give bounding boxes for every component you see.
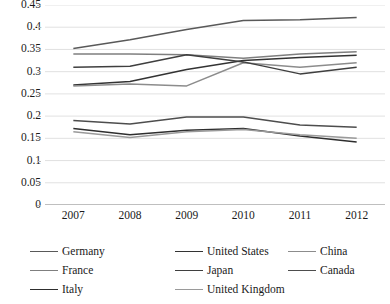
legend-item-label: Italy [62, 284, 83, 296]
y-axis-tick-mark [37, 205, 41, 206]
y-axis-tick-mark [37, 183, 41, 184]
series-line-germany [73, 17, 356, 48]
series-line-united-states [73, 55, 356, 85]
x-axis-tick-label: 2010 [232, 210, 255, 222]
series-line-canada [73, 117, 356, 127]
x-axis-tick-label: 2012 [345, 210, 368, 222]
y-axis-tick-mark [37, 72, 41, 73]
legend-item-japan[interactable]: Japan [175, 265, 233, 277]
legend-item-label: United Kingdom [207, 284, 285, 296]
y-axis-tick-mark [37, 116, 41, 117]
y-axis-tick-mark [37, 5, 41, 6]
legend-line-swatch [30, 289, 58, 290]
legend-item-label: Japan [207, 265, 233, 277]
legend-item-france[interactable]: France [30, 265, 93, 277]
chart-legend: GermanyUnited StatesChinaFranceJapanCana… [30, 246, 386, 302]
legend-line-swatch [175, 270, 203, 271]
line-chart-svg [45, 5, 385, 205]
legend-item-canada[interactable]: Canada [288, 265, 354, 277]
legend-item-china[interactable]: China [288, 246, 347, 258]
legend-item-united-kingdom[interactable]: United Kingdom [175, 284, 285, 296]
x-axis-tick-label: 2009 [175, 210, 198, 222]
y-axis-tick-mark [37, 49, 41, 50]
x-axis-labels: 200720082009201020112012 [45, 206, 385, 226]
x-axis-tick-label: 2007 [62, 210, 85, 222]
legend-line-swatch [30, 251, 58, 252]
legend-line-swatch [175, 289, 203, 290]
legend-line-swatch [30, 270, 58, 271]
legend-line-swatch [288, 251, 316, 252]
x-axis-tick-label: 2011 [289, 210, 312, 222]
legend-item-germany[interactable]: Germany [30, 246, 105, 258]
y-axis-labels: 00.050.10.150.20.250.30.350.40.45 [0, 0, 41, 210]
legend-item-united-states[interactable]: United States [175, 246, 269, 258]
y-axis-tick-mark [37, 138, 41, 139]
plot-area [45, 5, 385, 205]
legend-item-label: China [320, 246, 347, 258]
legend-line-swatch [175, 251, 203, 252]
x-axis-tick-label: 2008 [119, 210, 142, 222]
y-axis-tick-mark [37, 161, 41, 162]
legend-item-label: United States [207, 246, 269, 258]
legend-line-swatch [288, 270, 316, 271]
legend-item-label: France [62, 265, 93, 277]
y-axis-tick-mark [37, 94, 41, 95]
legend-item-label: Canada [320, 265, 354, 277]
legend-item-label: Germany [62, 246, 105, 258]
legend-item-italy[interactable]: Italy [30, 284, 83, 296]
y-axis-tick-mark [37, 27, 41, 28]
chart-container: 00.050.10.150.20.250.30.350.40.45 200720… [0, 0, 390, 304]
